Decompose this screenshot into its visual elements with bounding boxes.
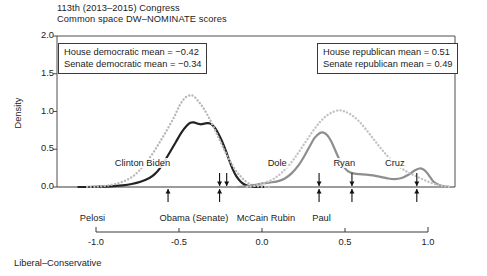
marker-down-obama-head: [217, 182, 222, 187]
marker-down-mccain-head: [317, 182, 322, 187]
annotation-republican-means: House republican mean = 0.51 Senate repu…: [317, 43, 458, 74]
dwnominate-density-chart: 113th (2013–2015) Congress Common space …: [0, 0, 487, 276]
density-curve-house-democrats: [78, 122, 265, 187]
annotation-line: Senate republican mean = 0.49: [323, 59, 452, 71]
density-curve-senate-republicans: [247, 110, 451, 187]
marker-up-rubin-head: [349, 189, 354, 194]
marker-up-mccain-head: [317, 189, 322, 194]
marker-up-paul-head: [414, 189, 419, 194]
annotation-line: Senate democratic mean = −0.34: [64, 59, 201, 71]
density-curve-senate-democrats: [87, 95, 270, 187]
inplot-label-clinton-biden: Clinton Biden: [114, 158, 171, 168]
axis-name-label-mccain-rubin: McCain Rubin: [237, 213, 295, 223]
annotation-line: House republican mean = 0.51: [323, 47, 452, 59]
axis-name-label-pelosi: Pelosi: [80, 213, 105, 223]
inplot-label-cruz: Cruz: [384, 158, 406, 168]
marker-down-paul-head: [414, 182, 419, 187]
inplot-label-ryan: Ryan: [332, 158, 356, 168]
plot-canvas: [0, 0, 487, 276]
axis-name-label-obama-senate-: Obama (Senate): [160, 213, 229, 223]
axis-name-label-paul: Paul: [312, 213, 331, 223]
marker-down-rubin-head: [349, 182, 354, 187]
marker-up-obama-head: [217, 189, 222, 194]
marker-down-biden-head: [224, 182, 229, 187]
inplot-label-dole: Dole: [267, 158, 288, 168]
annotation-democratic-means: House democratic mean = −0.42 Senate dem…: [58, 43, 207, 74]
annotation-line: House democratic mean = −0.42: [64, 47, 201, 59]
marker-up-pelosi-head: [166, 189, 171, 194]
